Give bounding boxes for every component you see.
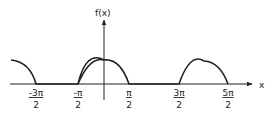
svg-text:2: 2 xyxy=(126,100,132,110)
x-axis-label: x xyxy=(259,80,265,90)
tick-label-neg-pi-2: -π 2 xyxy=(74,88,83,110)
half-wave-rectified-cosine-chart: x f(x) -3π 2 -π 2 π 2 3π 2 5π 2 xyxy=(0,0,271,114)
tick-label-neg-3pi-2: -3π 2 xyxy=(29,88,44,110)
svg-text:2: 2 xyxy=(225,100,231,110)
tick-label-3pi-2: 3π 2 xyxy=(173,88,185,110)
tick-label-pi-2: π 2 xyxy=(126,88,132,110)
svg-text:5π: 5π xyxy=(222,88,234,98)
svg-text:-3π: -3π xyxy=(29,88,44,98)
svg-text:-π: -π xyxy=(74,88,83,98)
tick-label-5pi-2: 5π 2 xyxy=(222,88,234,110)
svg-text:2: 2 xyxy=(75,100,81,110)
svg-text:3π: 3π xyxy=(173,88,185,98)
y-axis-label: f(x) xyxy=(95,8,111,18)
svg-text:2: 2 xyxy=(176,100,182,110)
svg-text:2: 2 xyxy=(33,100,39,110)
function-curve xyxy=(11,58,228,84)
svg-text:π: π xyxy=(126,88,132,98)
